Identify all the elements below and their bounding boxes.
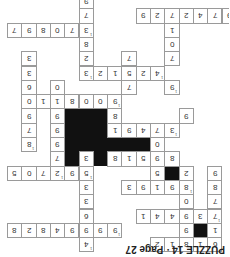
- grid-cell[interactable]: 2: [150, 8, 165, 23]
- grid-cell[interactable]: 0: [179, 194, 194, 209]
- grid-cell[interactable]: 7: [207, 8, 222, 23]
- grid-cell[interactable]: 8: [107, 151, 122, 166]
- grid-cell[interactable]: 1: [107, 123, 122, 138]
- grid-cell[interactable]: 1: [36, 94, 51, 109]
- grid-cell[interactable]: 7: [207, 194, 222, 209]
- grid-cell[interactable]: 5: [7, 166, 22, 181]
- grid-cell[interactable]: 9: [179, 108, 194, 123]
- grid-cell[interactable]: 31: [79, 23, 94, 38]
- grid-cell[interactable]: 8: [79, 37, 94, 52]
- grid-cell[interactable]: 9: [136, 180, 151, 195]
- grid-cell[interactable]: 5: [136, 151, 151, 166]
- grid-cell[interactable]: 4: [164, 209, 179, 224]
- grid-cell[interactable]: 41: [79, 237, 94, 252]
- grid-cell[interactable]: 8: [7, 223, 22, 238]
- grid-cell[interactable]: 1: [50, 94, 65, 109]
- grid-cell[interactable]: 21: [50, 166, 65, 181]
- grid-cell[interactable]: 9: [121, 123, 136, 138]
- grid-cell[interactable]: 3: [79, 151, 94, 166]
- grid-cell[interactable]: 5: [150, 166, 165, 181]
- grid-cell[interactable]: 7: [121, 80, 136, 95]
- grid-cell[interactable]: 1: [207, 223, 222, 238]
- grid-cell[interactable]: 9: [93, 223, 108, 238]
- grid-cell[interactable]: 6: [21, 80, 36, 95]
- grid-cell[interactable]: 3: [121, 180, 136, 195]
- grid-cell[interactable]: 8: [36, 223, 51, 238]
- grid-cell[interactable]: 1: [150, 180, 165, 195]
- grid-cell[interactable]: 7: [164, 8, 179, 23]
- grid-cell[interactable]: 7: [36, 166, 51, 181]
- grid-cell[interactable]: 3: [21, 51, 36, 66]
- grid-cell[interactable]: 0: [50, 80, 65, 95]
- cell-digit: 6: [84, 212, 88, 221]
- grid-cell[interactable]: 8: [207, 180, 222, 195]
- grid-cell[interactable]: 3: [79, 194, 94, 209]
- grid-cell[interactable]: 2: [21, 223, 36, 238]
- grid-cell[interactable]: 9: [179, 223, 194, 238]
- grid-cell[interactable]: 9: [50, 137, 65, 152]
- grid-cell[interactable]: 0: [93, 94, 108, 109]
- grid-cell[interactable]: 9: [50, 108, 65, 123]
- grid-cell[interactable]: 31: [164, 123, 179, 138]
- cell-digit: 9: [170, 183, 174, 192]
- grid-cell[interactable]: 91: [107, 94, 122, 109]
- grid-cell[interactable]: 9: [64, 166, 79, 181]
- grid-cell[interactable]: 0: [164, 37, 179, 52]
- grid-cell[interactable]: 2: [79, 51, 94, 66]
- grid-cell[interactable]: 0: [150, 137, 165, 152]
- cell-digit: 9: [55, 126, 59, 135]
- grid-cell[interactable]: 91: [222, 8, 230, 23]
- grid-cell[interactable]: 8: [64, 94, 79, 109]
- grid-cell[interactable]: 2: [93, 66, 108, 81]
- grid-cell[interactable]: 8: [36, 23, 51, 38]
- grid-cell[interactable]: 9: [136, 8, 151, 23]
- grid-cell[interactable]: 31: [79, 66, 94, 81]
- grid-cell[interactable]: 9: [21, 23, 36, 38]
- grid-cell[interactable]: 71: [207, 209, 222, 224]
- grid-cell[interactable]: 91: [107, 223, 122, 238]
- grid-cell[interactable]: 7: [21, 123, 36, 138]
- grid-cell[interactable]: 1: [107, 66, 122, 81]
- grid-cell[interactable]: 4: [193, 8, 208, 23]
- grid-cell[interactable]: 3: [193, 209, 208, 224]
- grid-cell[interactable]: 9: [207, 166, 222, 181]
- grid-cell[interactable]: 81: [179, 180, 194, 195]
- grid-cell[interactable]: 7: [150, 123, 165, 138]
- grid-cell[interactable]: 1: [164, 23, 179, 38]
- grid-cell[interactable]: 4: [50, 223, 65, 238]
- grid-cell[interactable]: 91: [164, 80, 179, 95]
- grid-cell[interactable]: 41: [150, 66, 165, 81]
- grid-cell[interactable]: 4: [150, 209, 165, 224]
- grid-cell[interactable]: 1: [121, 151, 136, 166]
- grid-cell[interactable]: 2: [179, 8, 194, 23]
- grid-cell[interactable]: 8: [107, 108, 122, 123]
- grid-cell[interactable]: 7: [50, 151, 65, 166]
- grid-cell[interactable]: 7: [7, 23, 22, 38]
- grid-cell[interactable]: 0: [79, 94, 94, 109]
- grid-cell[interactable]: 6: [79, 209, 94, 224]
- grid-cell[interactable]: 0: [21, 166, 36, 181]
- grid-cell[interactable]: 0: [21, 94, 36, 109]
- grid-cell[interactable]: 4: [136, 123, 151, 138]
- grid-cell[interactable]: 51: [79, 166, 94, 181]
- grid-cell[interactable]: 9: [50, 123, 65, 138]
- grid-cell[interactable]: 9: [21, 108, 36, 123]
- grid-cell[interactable]: 3: [79, 180, 94, 195]
- grid-cell[interactable]: 7: [64, 23, 79, 38]
- grid-cell[interactable]: 9: [79, 223, 94, 238]
- grid-cell[interactable]: 7: [164, 51, 179, 66]
- grid-cell[interactable]: 7: [79, 8, 94, 23]
- grid-cell[interactable]: 3: [21, 66, 36, 81]
- grid-cell[interactable]: 2: [179, 166, 194, 181]
- grid-cell[interactable]: 9: [64, 223, 79, 238]
- grid-cell[interactable]: 9: [164, 180, 179, 195]
- grid-cell[interactable]: 0: [50, 23, 65, 38]
- grid-cell[interactable]: 2: [136, 66, 151, 81]
- grid-cell[interactable]: 5: [121, 66, 136, 81]
- grid-cell[interactable]: 9: [150, 151, 165, 166]
- grid-cell[interactable]: 81: [21, 137, 36, 152]
- grid-cell[interactable]: 9: [179, 209, 194, 224]
- grid-cell[interactable]: 8: [164, 151, 179, 166]
- grid-cell[interactable]: 7: [121, 51, 136, 66]
- grid-cell[interactable]: 1: [136, 209, 151, 224]
